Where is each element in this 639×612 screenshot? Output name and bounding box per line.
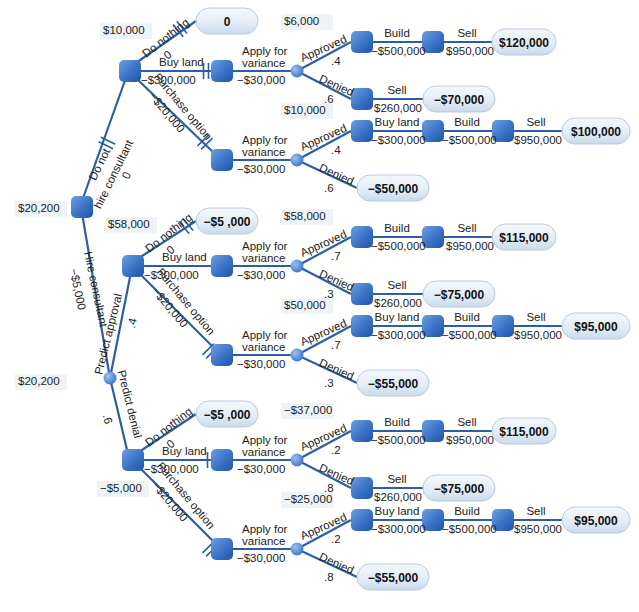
branch-cost: −$500,000 bbox=[371, 434, 426, 446]
decision-node-apply-variance bbox=[211, 255, 233, 277]
branch-label: Sell bbox=[387, 279, 406, 291]
branch-label: Build bbox=[454, 311, 480, 323]
payoff-value: −$5 ,000 bbox=[203, 215, 250, 229]
branch-cost: −$30,000 bbox=[237, 74, 285, 86]
expected-value: $10,000 bbox=[284, 104, 326, 116]
branch-cost: −$300,000 bbox=[371, 329, 426, 341]
decision-node-sell bbox=[351, 477, 373, 499]
branch-label: Sell bbox=[526, 116, 545, 128]
decision-node-buy-land bbox=[351, 315, 373, 337]
expected-value: $58,000 bbox=[108, 218, 150, 230]
payoff-value: −$55,000 bbox=[368, 377, 419, 391]
decision-node-apply-variance bbox=[211, 538, 233, 560]
branch-label: Sell bbox=[526, 311, 545, 323]
chance-node-variance bbox=[291, 454, 304, 467]
probability: .6 bbox=[324, 182, 334, 194]
probability: .4 bbox=[331, 144, 341, 156]
expected-value: $6,000 bbox=[284, 15, 319, 27]
expected-value: −$5,000 bbox=[100, 482, 142, 494]
branch-label: variance bbox=[242, 535, 285, 547]
probability: .2 bbox=[331, 444, 341, 456]
branch-label: Apply for bbox=[242, 134, 288, 146]
branch-label: Apply for bbox=[242, 329, 288, 341]
branch-cost: −$30,000 bbox=[237, 269, 285, 281]
probability: .7 bbox=[331, 250, 341, 262]
decision-node-build bbox=[351, 31, 373, 53]
decision-node-sell bbox=[351, 88, 373, 110]
decision-node-apply-variance bbox=[211, 149, 233, 171]
branch-cost: −$300,000 bbox=[371, 134, 426, 146]
branch-amount: $260,000 bbox=[374, 102, 422, 114]
expected-value: $10,000 bbox=[103, 24, 145, 36]
branch-label: Sell bbox=[457, 222, 476, 234]
chance-node-variance bbox=[291, 154, 304, 167]
branch-label: Buy land bbox=[162, 251, 207, 263]
chance-node-variance bbox=[291, 65, 304, 78]
branch-label: Buy land bbox=[375, 116, 420, 128]
probability: .2 bbox=[331, 533, 341, 545]
chance-node-variance bbox=[291, 349, 304, 362]
branch-amount: $950,000 bbox=[446, 240, 494, 252]
payoff-value: $95,000 bbox=[574, 514, 618, 528]
branch-amount: $950,000 bbox=[514, 134, 562, 146]
branch-cost: −$500,000 bbox=[442, 134, 497, 146]
branch-cost: −$500,000 bbox=[442, 329, 497, 341]
branch-cost: 0 bbox=[120, 170, 134, 181]
branch-label: Apply for bbox=[242, 45, 288, 57]
branch-label: Sell bbox=[526, 505, 545, 517]
branch-cost: −$5,000 bbox=[68, 267, 88, 310]
branch-label: variance bbox=[242, 446, 285, 458]
probability: .7 bbox=[331, 339, 341, 351]
chance-node-consultant-report bbox=[104, 372, 117, 385]
decision-node-sell bbox=[351, 283, 373, 305]
branch-amount: $260,000 bbox=[374, 297, 422, 309]
payoff-value: −$50,000 bbox=[368, 182, 419, 196]
payoff-value: $115,000 bbox=[499, 425, 549, 439]
branch-label: Build bbox=[454, 505, 480, 517]
expected-value: $58,000 bbox=[284, 210, 326, 222]
branch-amount: $950,000 bbox=[514, 329, 562, 341]
branch-label: Build bbox=[454, 116, 480, 128]
expected-value: $50,000 bbox=[284, 299, 326, 311]
branch-cost: −$500,000 bbox=[442, 523, 497, 535]
chance-node-variance bbox=[291, 543, 304, 556]
branch-cost: −$30,000 bbox=[237, 552, 285, 564]
payoff-value: $95,000 bbox=[574, 320, 618, 334]
decision-node-buy-land bbox=[351, 509, 373, 531]
expected-value: −$25,000 bbox=[284, 493, 332, 505]
branch-label: Buy land bbox=[375, 505, 420, 517]
branch-label: variance bbox=[242, 57, 285, 69]
probability: .3 bbox=[324, 377, 334, 389]
expected-value: $20,200 bbox=[18, 202, 60, 214]
payoff-value: $115,000 bbox=[499, 231, 549, 245]
decision-tree-diagram: $20,200Do nothire consultant0Hire consul… bbox=[0, 0, 639, 612]
decision-node-apply-variance bbox=[211, 449, 233, 471]
branch-amount: $260,000 bbox=[374, 491, 422, 503]
branch-label: Apply for bbox=[242, 434, 288, 446]
payoff-value: −$70,000 bbox=[434, 93, 485, 107]
branch-label: Buy land bbox=[375, 311, 420, 323]
branch-label: Sell bbox=[457, 27, 476, 39]
chance-node-variance bbox=[291, 260, 304, 273]
payoff-value: −$55,000 bbox=[368, 571, 419, 585]
probability: .8 bbox=[324, 571, 334, 583]
decision-node-build bbox=[351, 226, 373, 248]
probability: .4 bbox=[125, 316, 139, 329]
branch-label: Sell bbox=[387, 473, 406, 485]
branch-cost: −$30,000 bbox=[237, 163, 285, 175]
branch-label: Build bbox=[384, 416, 410, 428]
branch-cost: −$300,000 bbox=[371, 523, 426, 535]
branch-label: Buy land bbox=[159, 56, 204, 68]
decision-node-build bbox=[351, 420, 373, 442]
decision-node-strategy bbox=[119, 60, 141, 82]
branch-amount: $950,000 bbox=[446, 45, 494, 57]
branch-amount: $950,000 bbox=[514, 523, 562, 535]
branch-label: variance bbox=[242, 252, 285, 264]
branch-label: Apply for bbox=[242, 240, 288, 252]
branch-label: Predict denial bbox=[116, 369, 145, 440]
branch-label: Sell bbox=[457, 416, 476, 428]
decision-node-apply-variance bbox=[211, 60, 233, 82]
branch-label: variance bbox=[242, 341, 285, 353]
expected-value: $20,200 bbox=[18, 375, 60, 387]
branch-label: Build bbox=[384, 222, 410, 234]
